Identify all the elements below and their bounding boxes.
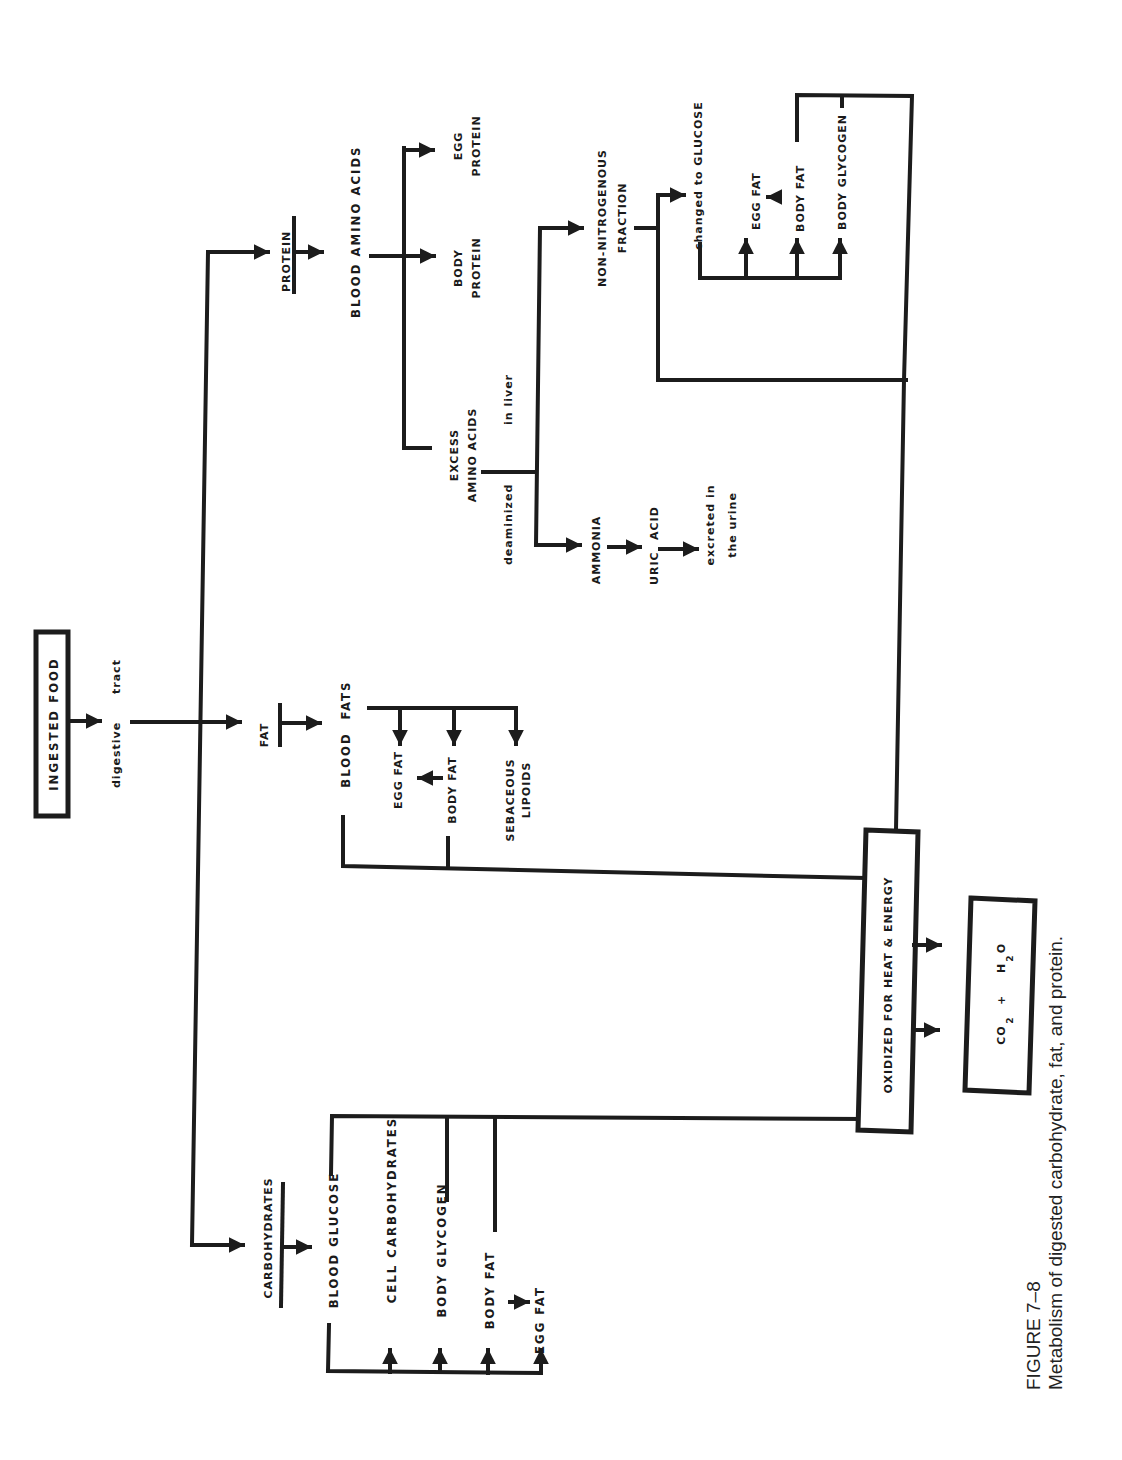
- plus-label: +: [995, 995, 1008, 1005]
- glucose-fanout: [328, 1325, 541, 1373]
- glucose-fanout: [700, 244, 840, 278]
- non-nitro-split: [658, 195, 680, 380]
- excreted-label-2: the urine: [726, 492, 739, 558]
- tract-label: tract: [110, 659, 123, 694]
- body-protein-label-2: PROTEIN: [470, 237, 483, 298]
- figure-number: FIGURE 7–8: [1023, 1281, 1044, 1390]
- oxidized-node: OXIDIZED FOR HEAT & ENERGY: [858, 830, 918, 1132]
- c-egg-fat-label: EGG FAT: [532, 1286, 547, 1354]
- non-nitro-label-2: FRACTION: [616, 183, 629, 254]
- cell-carbs-label: CELL CARBOHYDRATES: [384, 1117, 399, 1303]
- ingested-food-node: INGESTED FOOD: [36, 632, 68, 816]
- deaminize-split: [536, 228, 574, 545]
- protein-label: PROTEIN: [280, 231, 293, 292]
- egg-protein-label-1: EGG: [452, 132, 465, 161]
- trunk-line: [192, 252, 240, 1245]
- fat-fats-label: FATS: [338, 681, 353, 720]
- fat-label: FAT: [258, 723, 271, 747]
- excess-label-2: AMINO ACIDS: [466, 408, 479, 503]
- co2-h2o-node: CO 2 + H 2 O: [965, 898, 1035, 1093]
- carb-return-line: [331, 1116, 864, 1174]
- non-nitro-label-1: NON-NITROGENOUS: [596, 149, 609, 287]
- acid-label: ACID: [648, 506, 661, 540]
- metabolism-diagram: INGESTED FOOD digestive tract PROTEIN BL…: [0, 0, 1122, 1460]
- sebaceous-label-1: SEBACEOUS: [504, 758, 517, 841]
- h2o-o-label: O: [995, 943, 1008, 953]
- excess-label-1: EXCESS: [448, 429, 461, 482]
- excreted-label-1: excreted in: [704, 485, 717, 566]
- c-body-fat-label: BODY FAT: [482, 1251, 497, 1330]
- fat-blood-label: BLOOD: [338, 732, 353, 788]
- p-egg-fat-label: EGG FAT: [750, 172, 763, 230]
- carbohydrates-label: CARBOHYDRATES: [262, 1177, 275, 1298]
- h2o-h-label: H: [995, 963, 1008, 973]
- changed-to-glucose-label: changed to GLUCOSE: [692, 101, 705, 250]
- uric-label: URIC: [648, 551, 661, 585]
- in-liver-label: in liver: [502, 374, 515, 425]
- f-body-fat-label: BODY FAT: [446, 756, 459, 823]
- body-protein-label-1: BODY: [452, 249, 465, 287]
- f-egg-fat-label: EGG FAT: [392, 751, 405, 809]
- co2-subscript: 2: [1005, 1016, 1015, 1023]
- sebaceous-label-2: LIPOIDS: [520, 762, 533, 819]
- fat-return-line: [343, 817, 864, 878]
- blood-amino-acids-label: BLOOD AMINO ACIDS: [348, 145, 363, 318]
- co2-label: CO: [995, 1025, 1008, 1044]
- p-return-line: [797, 95, 912, 830]
- amino-split: [404, 148, 430, 448]
- egg-protein-label-2: PROTEIN: [470, 115, 483, 176]
- oxidized-label: OXIDIZED FOR HEAT & ENERGY: [882, 876, 895, 1093]
- fats-fanout: [369, 708, 516, 742]
- figure-caption: Metabolism of digested carbohydrate, fat…: [1045, 936, 1066, 1390]
- ammonia-label: AMMONIA: [590, 516, 603, 585]
- ingested-food-label: INGESTED FOOD: [46, 657, 61, 791]
- c-body-glycogen-label: BODY GLYCOGEN: [434, 1182, 449, 1317]
- deaminized-label: deaminized: [502, 484, 515, 565]
- p-body-glycogen-label: BODY GLYCOGEN: [836, 114, 849, 230]
- p-body-fat-label: BODY FAT: [794, 165, 807, 232]
- blood-glucose-label: BLOOD GLUCOSE: [326, 1172, 341, 1309]
- digestive-label: digestive: [110, 722, 123, 788]
- h2o-subscript: 2: [1005, 954, 1015, 961]
